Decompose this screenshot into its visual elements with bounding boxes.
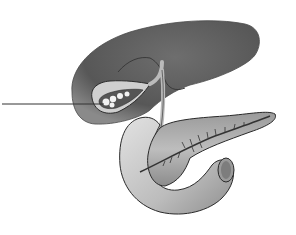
anatomy-diagram — [0, 0, 296, 235]
